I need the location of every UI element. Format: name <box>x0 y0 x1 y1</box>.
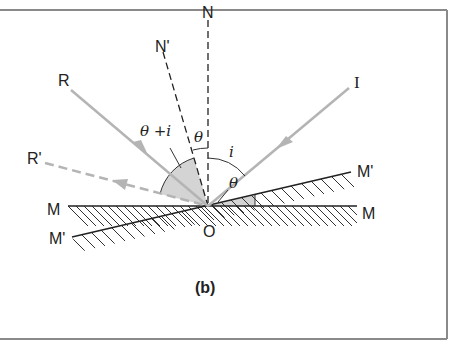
label-m-prime-right: M' <box>357 163 373 180</box>
theta-plus-i-leader <box>170 148 181 168</box>
reflection-diagram: N N' R R' I M M M' M' O θ +i θ i θ (b) <box>0 0 468 344</box>
label-m-prime-left: M' <box>49 230 65 247</box>
label-i-angle: i <box>229 143 234 161</box>
label-m-right: M <box>362 205 375 222</box>
label-theta-top: θ <box>194 128 203 146</box>
label-n: N <box>202 4 214 21</box>
label-m-left: M <box>47 201 60 218</box>
label-theta-plus-i: θ +i <box>140 122 171 140</box>
label-r: R <box>58 72 70 89</box>
label-theta-mirror: θ <box>229 174 238 192</box>
reflected-rotated-arrow-icon <box>112 179 128 190</box>
label-i: I <box>354 73 360 92</box>
reflected-arrow-icon <box>133 140 148 155</box>
figure-caption: (b) <box>195 279 215 296</box>
label-r-prime: R' <box>27 150 42 167</box>
reflected-ray <box>71 90 208 206</box>
figure-frame <box>0 10 447 339</box>
angle-theta-top-arc <box>193 148 208 150</box>
label-n-prime: N' <box>155 38 170 55</box>
mirror-m-hatching <box>68 206 368 226</box>
label-o: O <box>203 223 215 240</box>
angle-i-arc <box>208 158 245 176</box>
